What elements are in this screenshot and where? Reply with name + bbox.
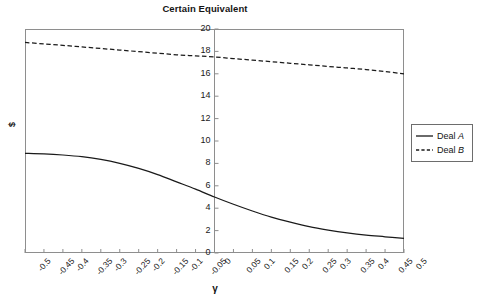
y-tick-label: 0 (189, 247, 211, 257)
legend-label-deal-a: Deal A (437, 131, 464, 141)
legend-item: Deal B (416, 143, 472, 157)
legend-item: Deal A (416, 129, 472, 143)
legend-line-dashed-icon (416, 146, 433, 154)
y-tick-label: 16 (189, 68, 211, 78)
legend-label-deal-b: Deal B (437, 145, 464, 155)
y-tick-label: 2 (189, 225, 211, 235)
y-tick-label: 18 (189, 45, 211, 55)
y-tick-label: 14 (189, 90, 211, 100)
y-tick-label: 12 (189, 113, 211, 123)
y-tick-label: 20 (189, 23, 211, 33)
y-tick-label: 10 (189, 135, 211, 145)
y-tick-label: 8 (189, 157, 211, 167)
axes-group (25, 29, 404, 253)
y-tick-label: 4 (189, 202, 211, 212)
y-tick-label: 6 (189, 180, 211, 190)
chart-legend: Deal A Deal B (411, 124, 473, 162)
chart-figure: Certain Equivalent $ 02468101214161820 -… (0, 0, 480, 303)
x-axis-label: γ (0, 283, 430, 294)
legend-line-solid-icon (416, 132, 433, 140)
